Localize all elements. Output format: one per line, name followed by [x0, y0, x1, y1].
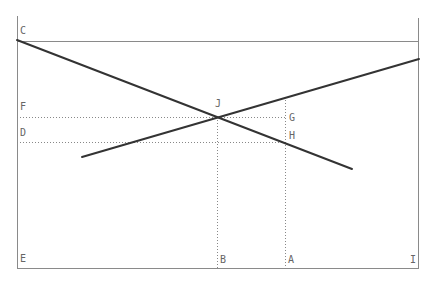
label-E: E — [20, 253, 26, 264]
label-C: C — [20, 25, 26, 36]
label-D: D — [20, 127, 26, 138]
rising-line — [82, 59, 419, 157]
falling-line — [17, 40, 352, 169]
label-G: G — [289, 112, 295, 123]
label-F: F — [20, 101, 26, 112]
label-J: J — [215, 98, 221, 109]
label-B: B — [220, 254, 226, 265]
labels: C F D E J G H B A I — [20, 25, 416, 265]
guides — [17, 100, 286, 269]
label-A: A — [288, 254, 294, 265]
label-H: H — [289, 130, 295, 141]
label-I: I — [410, 254, 416, 265]
diagram-canvas: C F D E J G H B A I — [0, 0, 435, 283]
